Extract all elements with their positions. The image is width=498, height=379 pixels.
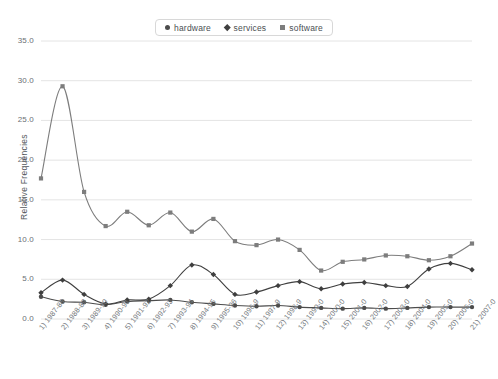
- data-point: [448, 254, 452, 258]
- series-line-services: [41, 263, 472, 304]
- data-point: [190, 230, 194, 234]
- data-point: [383, 283, 388, 288]
- y-tick-label: 35.0: [4, 36, 34, 45]
- y-tick-label: 15.0: [4, 195, 34, 204]
- data-point: [211, 217, 215, 221]
- data-point: [470, 241, 474, 245]
- data-point: [60, 84, 64, 88]
- data-point: [275, 283, 280, 288]
- y-tick-label: 25.0: [4, 115, 34, 124]
- data-point: [427, 258, 431, 262]
- data-point: [426, 266, 431, 271]
- data-point: [405, 284, 410, 289]
- data-point: [318, 286, 323, 291]
- data-point: [125, 210, 129, 214]
- data-point: [82, 190, 86, 194]
- y-tick-label: 5.0: [4, 274, 34, 283]
- data-point: [60, 277, 65, 282]
- data-point: [189, 262, 194, 267]
- series-software: [39, 84, 474, 272]
- data-point: [405, 254, 409, 258]
- data-point: [254, 243, 258, 247]
- y-tick-label: 30.0: [4, 76, 34, 85]
- gridlines: [41, 41, 472, 319]
- y-tick-label: 20.0: [4, 155, 34, 164]
- data-point: [81, 292, 86, 297]
- y-tick-label: 0.0: [4, 314, 34, 323]
- data-point: [362, 257, 366, 261]
- data-point: [341, 260, 345, 264]
- data-point: [384, 253, 388, 257]
- data-point: [232, 292, 237, 297]
- data-point: [39, 176, 43, 180]
- data-point: [168, 210, 172, 214]
- data-point: [276, 237, 280, 241]
- data-point: [298, 248, 302, 252]
- data-point: [233, 239, 237, 243]
- data-point: [340, 281, 345, 286]
- data-point: [147, 223, 151, 227]
- y-tick-label: 10.0: [4, 235, 34, 244]
- data-point: [254, 289, 259, 294]
- data-point: [469, 267, 474, 272]
- data-point: [104, 224, 108, 228]
- data-point: [448, 261, 453, 266]
- data-point: [362, 280, 367, 285]
- data-point: [319, 268, 323, 272]
